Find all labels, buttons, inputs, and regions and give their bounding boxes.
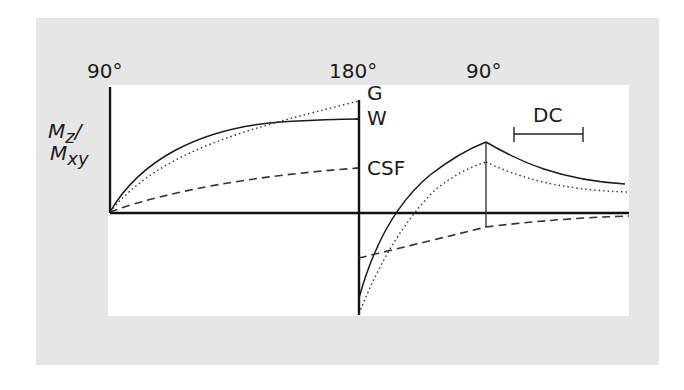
tissue-label-csf: CSF xyxy=(367,156,405,180)
curve-csf-inverted xyxy=(359,216,629,258)
curve-white-matter-recovery xyxy=(110,119,359,212)
tissue-label-white-matter: W xyxy=(367,106,387,130)
pulse-label-90-first: 90° xyxy=(87,59,122,83)
curve-gray-matter-recovery xyxy=(110,101,359,212)
pulse-label-180: 180° xyxy=(329,59,377,83)
pulse-label-90-second: 90° xyxy=(466,59,501,83)
curve-white-matter-decay xyxy=(486,142,625,184)
curve-csf-recovery xyxy=(110,168,359,212)
curve-gray-matter-decay xyxy=(486,162,627,192)
dc-label: DC xyxy=(533,103,562,127)
inversion-recovery-diagram: 90° 180° 90° Mz/ Mxy G W CSF DC xyxy=(0,0,684,390)
curve-gray-matter-inverted xyxy=(359,162,486,314)
tissue-label-gray-matter: G xyxy=(367,81,383,105)
